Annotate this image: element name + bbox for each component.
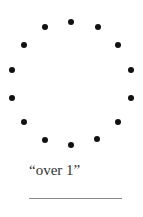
- fraction-caption: “over 1”: [29, 161, 80, 179]
- dot: [128, 67, 134, 73]
- dot: [9, 67, 15, 73]
- dot: [42, 24, 48, 30]
- dot: [21, 119, 27, 125]
- dot-circle-figure: [0, 0, 143, 217]
- dot: [68, 19, 74, 25]
- dot: [9, 95, 15, 101]
- dot: [115, 119, 121, 125]
- dot: [21, 42, 27, 48]
- answer-blank-line: [29, 198, 122, 199]
- dot: [128, 95, 134, 101]
- dot: [115, 42, 121, 48]
- dot: [95, 24, 101, 30]
- dot: [68, 142, 74, 148]
- dot: [42, 137, 48, 143]
- dot: [94, 136, 100, 142]
